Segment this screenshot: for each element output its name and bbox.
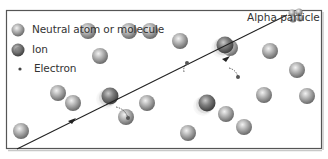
electron-icon <box>185 61 189 65</box>
legend-neutral-atom-label: Neutral atom or molecule <box>32 23 164 35</box>
neutral-atom-icon <box>13 123 29 139</box>
ionization-diagram: Neutral atom or molecule Ion Electron Al… <box>0 0 328 159</box>
neutral-atom-icon <box>289 62 305 78</box>
neutral-atom-icon <box>172 33 188 49</box>
neutral-atom-icon <box>180 125 196 141</box>
legend-electron-label: Electron <box>34 62 76 74</box>
neutral-atom-icon <box>65 95 81 111</box>
neutral-atom-icon <box>139 95 155 111</box>
neutral-atom-icon <box>12 24 25 37</box>
alpha-particle-label: Alpha particle <box>247 11 320 23</box>
legend-ion-label: Ion <box>32 43 48 55</box>
neutral-atom-icon <box>92 48 108 64</box>
electron-icon <box>236 75 240 79</box>
neutral-atom-icon <box>50 85 66 101</box>
neutral-atom-icon <box>118 109 134 125</box>
neutral-atom-icon <box>262 43 278 59</box>
neutral-atom-icon <box>218 106 234 122</box>
electron-icon <box>126 116 130 120</box>
neutral-atom-icon <box>299 88 315 104</box>
electron-icon <box>18 67 21 70</box>
neutral-atom-icon <box>236 119 252 135</box>
ion-icon-core <box>15 47 21 53</box>
neutral-atom-icon <box>256 87 272 103</box>
